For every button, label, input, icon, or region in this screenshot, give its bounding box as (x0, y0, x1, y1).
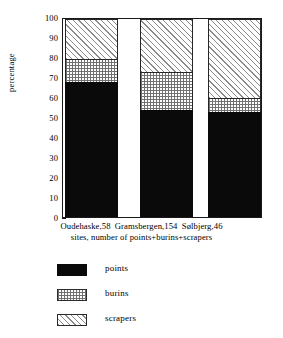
x-axis-title: sites, number of points+burins+scrapers (0, 232, 283, 243)
y-tick-label-100: 100 (32, 14, 58, 22)
legend-label-burins: burins (105, 288, 129, 298)
y-tick-label-60: 60 (32, 94, 58, 102)
plot-area (62, 18, 262, 218)
bar-oudehaske-58[interactable] (65, 19, 118, 217)
y-tick-label-90: 90 (32, 34, 58, 42)
x-label-site-1: Gramsbergen,154 (114, 221, 179, 231)
y-tick-label-10: 10 (32, 194, 58, 202)
bar-segment-points[interactable] (65, 82, 118, 217)
y-tick-label-80: 80 (32, 54, 58, 62)
y-tick-label-20: 20 (32, 174, 58, 182)
legend-swatch-points (57, 264, 87, 276)
y-tick-label-30: 30 (32, 154, 58, 162)
bar-s-lbjerg-46[interactable] (208, 19, 261, 217)
y-tick-label-40: 40 (32, 134, 58, 142)
y-tick-label-50: 50 (32, 114, 58, 122)
legend-item-points[interactable]: points (57, 262, 257, 287)
legend-swatch-scrapers (57, 314, 87, 326)
legend: pointsburinsscrapers (57, 262, 257, 337)
legend-label-points: points (105, 263, 128, 273)
stacked-bar-chart-figure: percentage 1009080706050403020100 Oudeha… (0, 0, 283, 338)
legend-item-scrapers[interactable]: scrapers (57, 312, 257, 337)
bar-segment-burins[interactable] (208, 98, 261, 112)
legend-item-burins[interactable]: burins (57, 287, 257, 312)
y-tick-major (62, 218, 66, 219)
bar-segment-scrapers[interactable] (65, 19, 118, 59)
legend-swatch-burins (57, 289, 87, 301)
x-label-site-2: Sølbjerg,46 (181, 221, 224, 231)
bar-segment-scrapers[interactable] (208, 19, 261, 98)
bar-segment-points[interactable] (140, 110, 193, 217)
y-axis-title: percentage (6, 53, 16, 92)
y-tick-label-70: 70 (32, 74, 58, 82)
bar-segment-burins[interactable] (65, 59, 118, 83)
bar-gramsbergen-154[interactable] (140, 19, 193, 217)
bar-segment-scrapers[interactable] (140, 19, 193, 72)
bar-segment-points[interactable] (208, 112, 261, 217)
legend-label-scrapers: scrapers (105, 313, 136, 323)
x-axis-category-labels: Oudehaske,58 Gramsbergen,154 Sølbjerg,46 (0, 221, 283, 232)
x-label-site-0: Oudehaske,58 (59, 221, 111, 231)
bar-segment-burins[interactable] (140, 72, 193, 110)
